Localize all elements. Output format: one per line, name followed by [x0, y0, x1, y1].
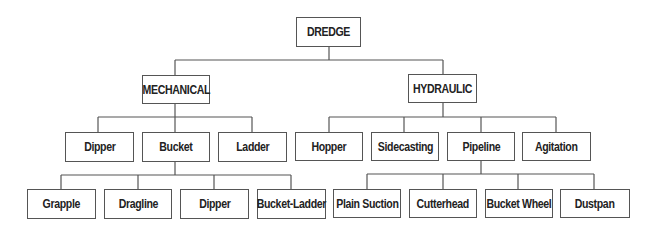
node-label: HYDRAULIC [413, 82, 472, 96]
node-label: Dragline [118, 197, 157, 211]
node-label: Hopper [312, 140, 347, 154]
node-bucket-bucket-ladder: Bucket-Ladder [257, 189, 326, 219]
node-hyd-hopper: Hopper [295, 132, 363, 161]
node-label: Bucket [159, 140, 192, 154]
node-label: Sidecasting [377, 140, 432, 154]
node-hyd-sidecasting: Sidecasting [371, 132, 439, 161]
node-label: Cutterhead [417, 197, 469, 211]
node-pipe-dustpan: Dustpan [560, 189, 630, 218]
node-hyd-agitation: Agitation [522, 132, 591, 161]
node-pipe-cutterhead: Cutterhead [409, 189, 477, 218]
node-pipe-plain-suction: Plain Suction [333, 189, 401, 218]
node-mech-bucket: Bucket [142, 132, 210, 162]
dredge-classification-diagram: DREDGE MECHANICAL HYDRAULIC Dipper Bucke… [0, 0, 657, 232]
node-hydraulic: HYDRAULIC [408, 74, 477, 103]
node-label: Ladder [236, 140, 269, 154]
node-label: Agitation [535, 140, 578, 154]
node-label: Bucket-Ladder [257, 197, 326, 211]
node-label: DREDGE [307, 25, 350, 39]
node-pipe-bucket-wheel: Bucket Wheel [485, 189, 553, 218]
node-label: Dustpan [575, 197, 615, 211]
node-bucket-grapple: Grapple [27, 189, 96, 219]
node-label: Pipeline [462, 140, 500, 154]
node-label: MECHANICAL [142, 83, 209, 97]
node-dredge: DREDGE [296, 17, 361, 47]
node-mechanical: MECHANICAL [142, 75, 210, 104]
node-hyd-pipeline: Pipeline [447, 132, 515, 161]
node-mech-ladder: Ladder [218, 132, 287, 162]
node-label: Dipper [84, 140, 115, 154]
node-bucket-dragline: Dragline [104, 189, 172, 219]
node-label: Plain Suction [336, 197, 398, 211]
node-label: Dipper [199, 197, 230, 211]
node-bucket-dipper: Dipper [180, 189, 249, 219]
node-label: Bucket Wheel [486, 197, 551, 211]
node-mech-dipper: Dipper [65, 132, 134, 162]
node-label: Grapple [43, 197, 80, 211]
